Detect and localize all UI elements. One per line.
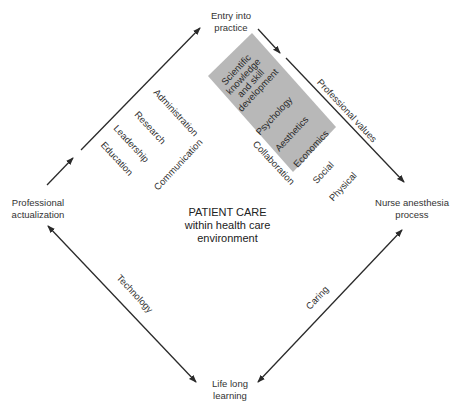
node-label-line: process (370, 209, 454, 221)
center-patient-care: PATIENT CARE within health care environm… (170, 206, 285, 245)
arrow-left-to-top-short (47, 158, 73, 185)
center-title-line2: within health care (170, 219, 285, 232)
node-life-long-learning: Life long learning (200, 378, 260, 402)
shaded-box (208, 33, 336, 172)
arrow-left-to-top-long (81, 28, 200, 150)
center-title-line1: PATIENT CARE (170, 206, 285, 219)
node-label-line: learning (200, 390, 260, 402)
node-label-line: actualization (0, 209, 76, 221)
arrow-left-bottom-bidirectional (48, 226, 196, 382)
node-nurse-anesthesia-process: Nurse anesthesia process (370, 197, 454, 221)
node-entry-into-practice: Entry into practice (200, 10, 262, 34)
node-label-line: practice (200, 22, 262, 34)
node-label-line: Nurse anesthesia (370, 197, 454, 209)
node-label-line: Entry into (200, 10, 262, 22)
node-label-line: Life long (200, 378, 260, 390)
node-professional-actualization: Professional actualization (0, 197, 76, 221)
center-title-line3: environment (170, 232, 285, 245)
node-label-line: Professional (0, 197, 76, 209)
arrow-bottom-right-bidirectional (258, 230, 402, 382)
